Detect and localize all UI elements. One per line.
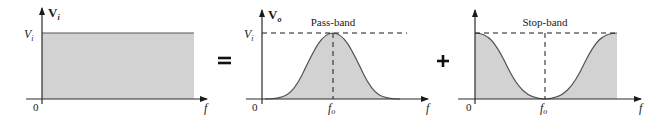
input-level-label: Vi bbox=[24, 27, 34, 43]
pass-band-fo-label: fo bbox=[328, 101, 335, 116]
stop-band-title: Stop-band bbox=[522, 16, 568, 28]
pass-band-origin-label: 0 bbox=[252, 101, 258, 113]
pass-band-panel: Pass-band Vo Vi 0 fo f bbox=[244, 7, 431, 116]
filter-decomposition-diagram: Vi Vi 0 f Pass-band Vo Vi 0 fo f bbox=[0, 0, 666, 120]
input-spectrum-area bbox=[42, 33, 194, 99]
input-spectrum-panel: Vi Vi 0 f bbox=[24, 5, 209, 115]
equals-sign bbox=[218, 58, 231, 63]
input-y-axis-label: Vi bbox=[48, 5, 60, 22]
pass-band-level-label: Vi bbox=[244, 27, 254, 43]
pass-band-title: Pass-band bbox=[311, 16, 356, 28]
plus-sign bbox=[437, 55, 449, 67]
stop-band-fo-label: fo bbox=[540, 101, 547, 116]
stop-band-panel: Stop-band 0 fo f bbox=[458, 10, 644, 116]
stop-band-area bbox=[475, 33, 617, 99]
stop-band-origin-label: 0 bbox=[466, 101, 472, 113]
stop-band-x-axis-label: f bbox=[639, 101, 644, 115]
input-origin-label: 0 bbox=[33, 101, 39, 113]
pass-band-y-axis-label: Vo bbox=[268, 7, 281, 24]
pass-band-x-axis-label: f bbox=[426, 101, 431, 115]
input-x-axis-label: f bbox=[204, 101, 209, 115]
